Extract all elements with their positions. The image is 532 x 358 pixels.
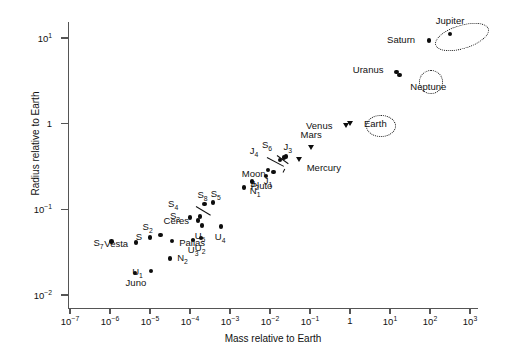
- data-point-s: [148, 235, 152, 239]
- data-point-u1: [149, 269, 153, 273]
- x-tick-label-7: 1: [330, 316, 370, 326]
- x-tick-label-3: 10−4: [170, 316, 210, 327]
- data-label-s6: S6: [0, 140, 272, 153]
- data-label-earth: Earth: [364, 119, 387, 129]
- x-tick-3: [189, 308, 190, 314]
- data-point-u5: [200, 223, 204, 227]
- data-point-s6: [282, 155, 286, 159]
- x-tick-label-2: 10−5: [130, 316, 170, 327]
- x-tick-9: [429, 308, 430, 314]
- data-label-s4: S4: [0, 199, 178, 212]
- x-tick-5: [269, 308, 270, 314]
- x-tick-label-8: 101: [370, 316, 410, 327]
- data-point-earth: [347, 121, 353, 126]
- data-label-mercury: Mercury: [307, 163, 341, 173]
- x-tick-8: [389, 308, 390, 314]
- data-point-mercury: [296, 157, 302, 162]
- x-tick-7: [349, 308, 350, 314]
- data-label-pallas: Pallas: [179, 238, 205, 248]
- data-point-j1: [266, 168, 270, 172]
- data-label-vesta: Vesta: [0, 239, 128, 249]
- data-label-n2: N2: [177, 253, 188, 266]
- data-point-saturn: [427, 38, 431, 42]
- data-label-uranus: Uranus: [0, 65, 383, 75]
- x-tick-6: [309, 308, 310, 314]
- data-label-saturn: Saturn: [0, 35, 415, 45]
- scatter-plot-figure: 101110−110−2 10−710−610−510−410−310−210−…: [0, 0, 532, 358]
- x-tick-4: [229, 308, 230, 314]
- x-tick-label-4: 10−3: [210, 316, 250, 327]
- data-label-mars: Mars: [271, 130, 351, 140]
- leader-line-3: [283, 168, 286, 172]
- data-point-ceres: [196, 218, 200, 222]
- data-label-neptune: Neptune: [410, 82, 446, 92]
- x-tick-label-9: 102: [410, 316, 450, 327]
- data-label-venus: Venus: [0, 121, 332, 131]
- x-tick-label-10: 103: [450, 316, 490, 327]
- data-label-juno: Juno: [96, 278, 176, 288]
- x-axis-line: [68, 308, 478, 309]
- x-tick-10: [469, 308, 470, 314]
- x-tick-2: [149, 308, 150, 314]
- data-label-jupiter: Jupiter: [410, 16, 490, 26]
- y-tick-3: [61, 294, 68, 295]
- data-label-ceres: Ceres: [0, 216, 189, 226]
- x-tick-label-0: 10−7: [50, 316, 90, 327]
- x-tick-1: [109, 308, 110, 314]
- x-axis-title: Mass relative to Earth: [68, 333, 478, 344]
- data-point-neptune: [397, 73, 401, 77]
- data-point-u4: [219, 224, 223, 228]
- x-tick-label-5: 10−2: [250, 316, 290, 327]
- x-tick-0: [69, 308, 70, 314]
- y-axis-title: Radius relative to Earth: [30, 49, 41, 239]
- data-point-moon: [271, 170, 275, 174]
- x-tick-label-1: 10−6: [90, 316, 130, 327]
- y-tick-label-3: 10−2: [18, 290, 52, 301]
- x-tick-label-6: 10−1: [290, 316, 330, 327]
